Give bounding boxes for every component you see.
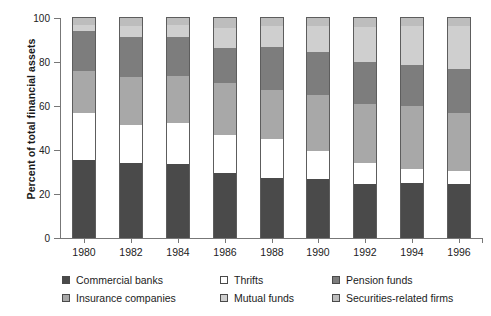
x-tick-1982 (131, 238, 132, 243)
x-tick-label-1990: 1990 (295, 246, 341, 258)
legend-item-insurance-companies: Insurance companies (62, 290, 176, 306)
x-tick-1990 (318, 238, 319, 243)
bar-segment-1992-insurance-companies (353, 103, 377, 163)
legend-swatch-icon-securities-related-firms (332, 294, 340, 302)
bar-segment-1982-thrifts (119, 124, 143, 164)
legend-label: Insurance companies (76, 292, 176, 304)
bar-segment-1988-securities-related-firms (260, 17, 284, 26)
y-tick-0 (54, 238, 60, 239)
bar-segment-1994-commercial-banks (400, 182, 424, 238)
legend-column-1: Commercial banksInsurance companies (62, 272, 176, 308)
y-tick-label-20: 20 (20, 189, 50, 200)
bar-segment-1994-thrifts (400, 168, 424, 183)
x-tick-1996 (459, 238, 460, 243)
bar-segment-1984-insurance-companies (166, 75, 190, 122)
y-tick-label-0: 0 (20, 233, 50, 244)
legend-swatch-icon-commercial-banks (62, 276, 70, 284)
bar-segment-1994-securities-related-firms (400, 17, 424, 26)
x-tick-label-1988: 1988 (249, 246, 295, 258)
x-tick-1992 (365, 238, 366, 243)
x-tick-label-1986: 1986 (202, 246, 248, 258)
y-tick-label-40: 40 (20, 145, 50, 156)
bar-1994 (400, 18, 424, 238)
legend-swatch-icon-pension-funds (332, 276, 340, 284)
bar-segment-1980-insurance-companies (72, 70, 96, 113)
bar-segment-1986-mutual-funds (213, 27, 237, 48)
bar-segment-1990-pension-funds (306, 51, 330, 95)
bar-segment-1984-pension-funds (166, 36, 190, 77)
x-tick-1986 (225, 238, 226, 243)
bar-segment-1988-mutual-funds (260, 25, 284, 47)
bar-segment-1982-mutual-funds (119, 25, 143, 37)
bar-segment-1990-securities-related-firms (306, 17, 330, 26)
bar-segment-1992-commercial-banks (353, 183, 377, 238)
bar-segment-1986-insurance-companies (213, 82, 237, 135)
bar-segment-1986-commercial-banks (213, 172, 237, 238)
bar-segment-1988-commercial-banks (260, 177, 284, 239)
bar-segment-1990-insurance-companies (306, 94, 330, 151)
bar-segment-1984-mutual-funds (166, 24, 190, 37)
x-tick-1980 (84, 238, 85, 243)
legend-item-mutual-funds: Mutual funds (220, 290, 294, 306)
bar-1984 (166, 18, 190, 238)
bar-segment-1990-commercial-banks (306, 178, 330, 238)
chart-legend: Commercial banksInsurance companiesThrif… (62, 272, 482, 308)
bar-segment-1996-securities-related-firms (447, 17, 471, 26)
bar-segment-1980-thrifts (72, 112, 96, 160)
bar-segment-1980-pension-funds (72, 30, 96, 71)
bar-1992 (353, 18, 377, 238)
bar-segment-1988-thrifts (260, 138, 284, 178)
legend-item-commercial-banks: Commercial banks (62, 272, 176, 288)
bar-segment-1990-mutual-funds (306, 25, 330, 52)
bar-segment-1992-mutual-funds (353, 26, 377, 62)
bar-segment-1986-thrifts (213, 134, 237, 174)
legend-label: Thrifts (234, 274, 263, 286)
bar-segment-1982-pension-funds (119, 36, 143, 78)
y-tick-label-100: 100 (20, 13, 50, 24)
legend-swatch-icon-thrifts (220, 276, 228, 284)
bar-1996 (447, 18, 471, 238)
x-tick-label-1980: 1980 (61, 246, 107, 258)
bar-segment-1996-mutual-funds (447, 25, 471, 69)
legend-item-securities-related-firms: Securities-related firms (332, 290, 453, 306)
bar-segment-1980-mutual-funds (72, 24, 96, 32)
x-tick-end (482, 238, 483, 243)
bar-segment-1984-securities-related-firms (166, 17, 190, 25)
legend-column-2: ThriftsMutual funds (220, 272, 294, 308)
bar-segment-1982-insurance-companies (119, 76, 143, 124)
legend-item-thrifts: Thrifts (220, 272, 294, 288)
legend-label: Pension funds (346, 274, 413, 286)
bars-container (61, 18, 482, 238)
bar-segment-1988-insurance-companies (260, 89, 284, 140)
bar-segment-1996-insurance-companies (447, 112, 471, 171)
bar-segment-1994-mutual-funds (400, 25, 424, 66)
legend-item-pension-funds: Pension funds (332, 272, 453, 288)
x-tick-label-1982: 1982 (108, 246, 154, 258)
bar-segment-1996-thrifts (447, 170, 471, 184)
bar-segment-1980-securities-related-firms (72, 17, 96, 25)
x-tick-label-1984: 1984 (155, 246, 201, 258)
bar-segment-1994-insurance-companies (400, 105, 424, 169)
bar-1990 (306, 18, 330, 238)
bar-segment-1982-securities-related-firms (119, 17, 143, 26)
bar-segment-1986-securities-related-firms (213, 17, 237, 28)
bar-segment-1992-securities-related-firms (353, 17, 377, 27)
x-tick-1994 (412, 238, 413, 243)
bar-segment-1984-thrifts (166, 122, 190, 165)
stacked-bar-chart: Percent of total financial assets 020406… (0, 0, 491, 316)
bar-1986 (213, 18, 237, 238)
x-tick-1984 (178, 238, 179, 243)
legend-swatch-icon-insurance-companies (62, 294, 70, 302)
y-tick-label-80: 80 (20, 57, 50, 68)
bar-1980 (72, 18, 96, 238)
x-tick-1988 (272, 238, 273, 243)
y-tick-label-60: 60 (20, 101, 50, 112)
x-tick-label-1992: 1992 (342, 246, 388, 258)
bar-segment-1996-commercial-banks (447, 183, 471, 238)
bar-segment-1992-pension-funds (353, 61, 377, 104)
bar-segment-1994-pension-funds (400, 64, 424, 106)
bar-segment-1996-pension-funds (447, 68, 471, 113)
bar-segment-1980-commercial-banks (72, 159, 96, 238)
bar-segment-1992-thrifts (353, 162, 377, 184)
bar-1988 (260, 18, 284, 238)
